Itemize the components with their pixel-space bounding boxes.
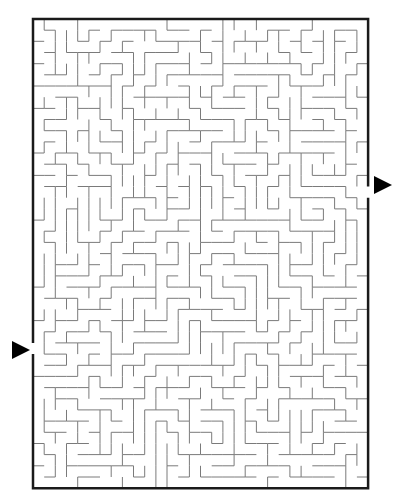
entrance-arrow-icon (12, 341, 30, 359)
maze-walls (33, 19, 368, 488)
maze-grid (0, 0, 407, 499)
exit-arrow-icon (374, 176, 392, 194)
